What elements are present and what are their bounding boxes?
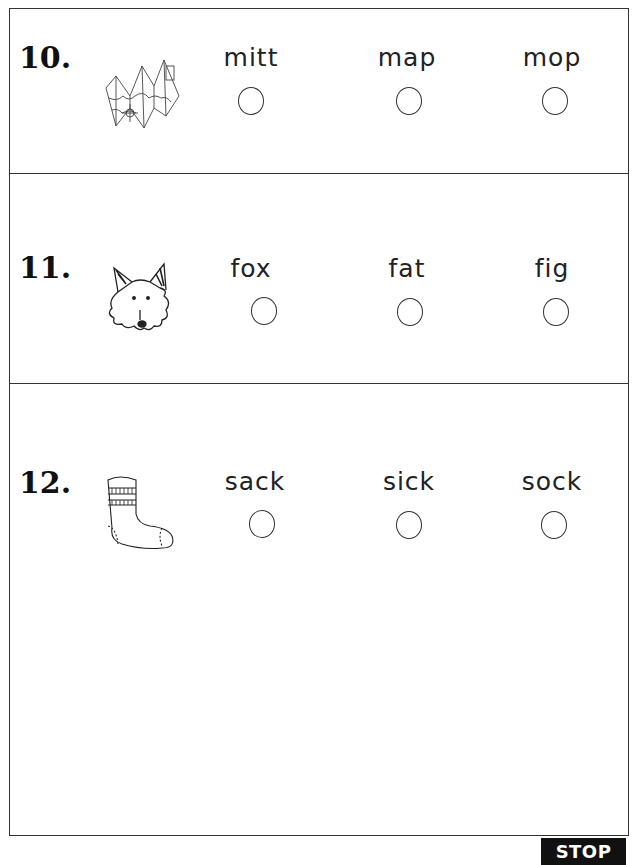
sock-icon (104, 474, 176, 550)
answer-bubble-mop[interactable] (542, 87, 568, 115)
answer-bubble-sack[interactable] (249, 510, 275, 538)
stop-badge: STOP (541, 838, 626, 865)
answer-bubble-fat[interactable] (397, 298, 423, 326)
row-divider (9, 383, 629, 384)
option-label: sock (502, 467, 602, 496)
answer-bubble-mitt[interactable] (238, 87, 264, 115)
option-label: mop (502, 43, 602, 72)
answer-bubble-sock[interactable] (541, 511, 567, 539)
fox-icon (104, 262, 176, 332)
option-label: fox (201, 254, 301, 283)
answer-bubble-fox[interactable] (251, 297, 277, 325)
option-label: sick (359, 467, 459, 496)
answer-sheet-frame (9, 8, 629, 836)
option-label: map (357, 43, 457, 72)
answer-bubble-fig[interactable] (543, 298, 569, 326)
option-label: sack (205, 467, 305, 496)
row-divider (9, 173, 629, 174)
answer-bubble-sick[interactable] (396, 511, 422, 539)
question-number: 12. (19, 465, 71, 500)
question-number: 10. (19, 40, 71, 75)
map-icon (104, 48, 184, 158)
option-label: fig (502, 254, 602, 283)
option-label: mitt (201, 43, 301, 72)
option-label: fat (357, 254, 457, 283)
answer-bubble-map[interactable] (396, 87, 422, 115)
question-number: 11. (19, 250, 71, 285)
